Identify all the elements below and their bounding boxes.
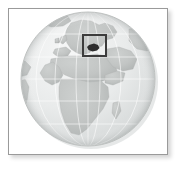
map-canvas	[9, 9, 167, 154]
globe-rim-shading	[21, 12, 155, 146]
globe-graphic	[9, 9, 167, 154]
locator-map	[0, 0, 180, 169]
map-frame	[8, 8, 168, 155]
